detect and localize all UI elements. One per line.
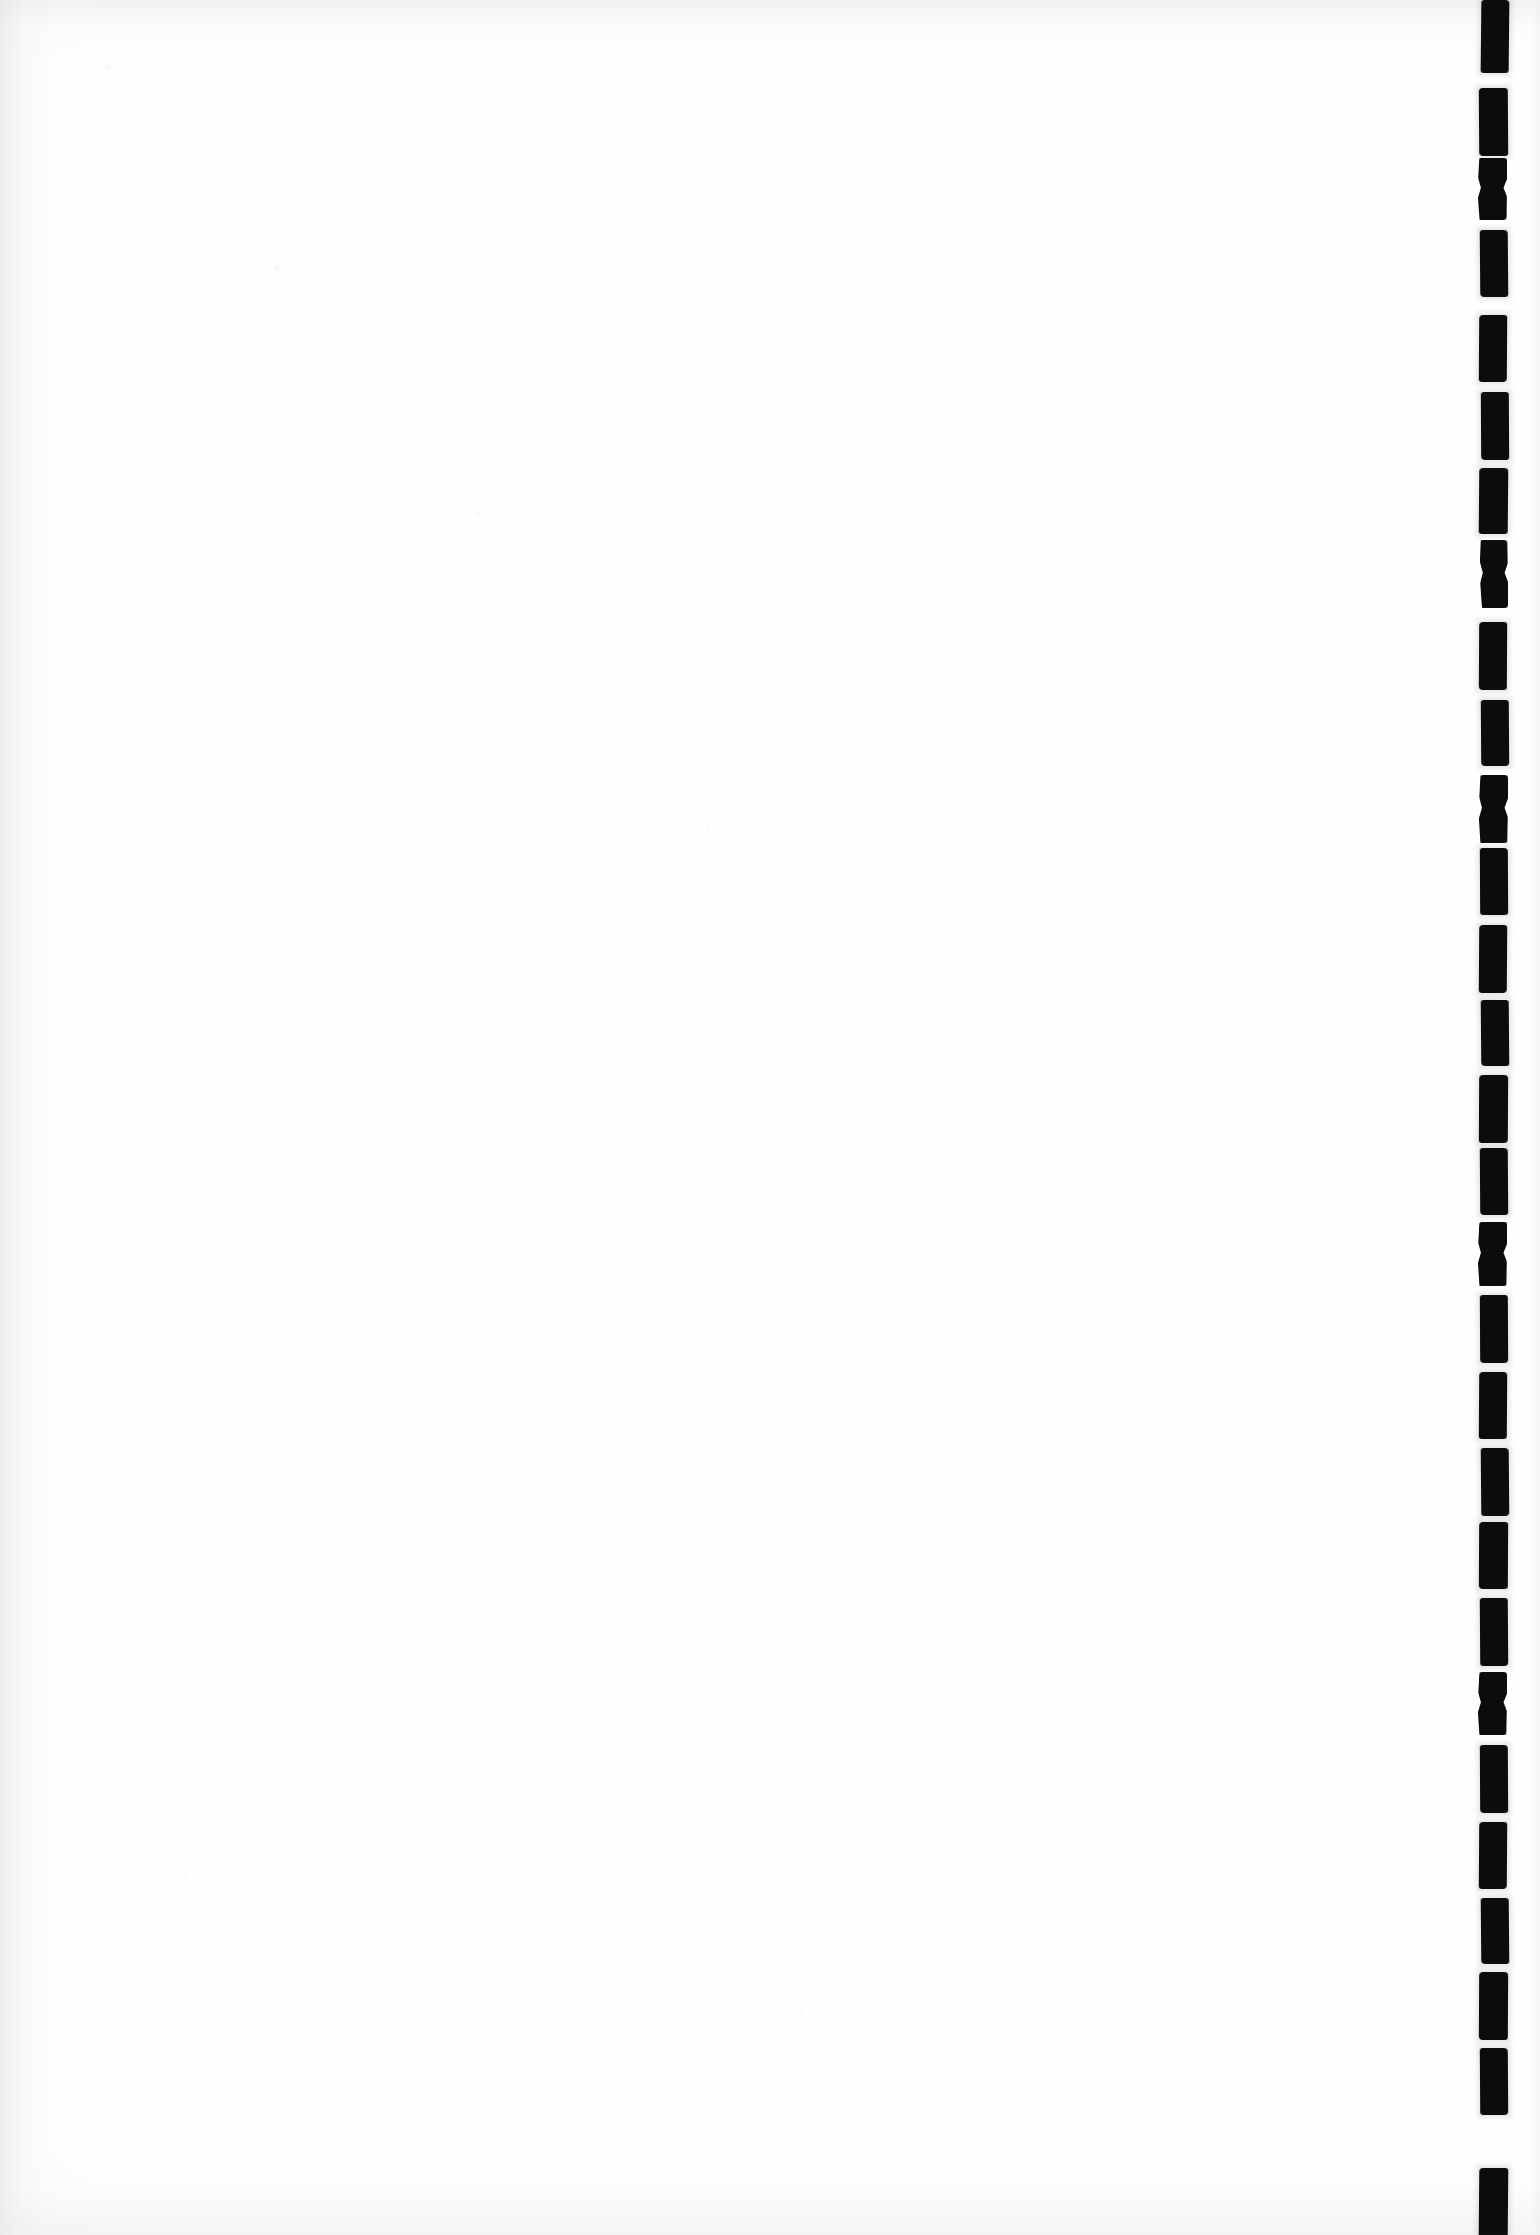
page-text-block xyxy=(135,160,1365,2030)
binding-edge-mark xyxy=(1481,0,1510,73)
binding-edge-mark xyxy=(1479,1075,1508,1143)
binding-edge-mark xyxy=(1480,2048,1508,2115)
binding-edge-mark xyxy=(1479,1522,1508,1589)
binding-edge-mark xyxy=(1481,700,1509,766)
binding-edge-mark xyxy=(1481,1000,1510,1066)
binding-edge-mark xyxy=(1481,1898,1510,1964)
binding-edge-mark xyxy=(1481,392,1509,460)
binding-edge-mark xyxy=(1480,230,1509,297)
scanned-page xyxy=(0,0,1540,2235)
binding-edge-mark xyxy=(1478,158,1507,220)
binding-edge-mark xyxy=(1480,1598,1508,1666)
binding-edge-mark xyxy=(1479,622,1507,690)
binding-edge-mark xyxy=(1478,1222,1508,1286)
binding-edge-mark xyxy=(1480,848,1508,915)
binding-edge-mark xyxy=(1479,1372,1507,1439)
binding-edge-mark xyxy=(1479,775,1509,843)
binding-edge-mark xyxy=(1479,1972,1508,2040)
binding-edge-mark xyxy=(1480,1745,1508,1813)
binding-edge-mark-column xyxy=(1455,0,1540,2235)
binding-edge-mark xyxy=(1479,2168,1509,2235)
binding-edge-mark xyxy=(1479,1822,1507,1889)
binding-edge-mark xyxy=(1479,468,1509,534)
binding-edge-mark xyxy=(1480,540,1509,608)
binding-edge-mark xyxy=(1478,1672,1508,1735)
binding-edge-mark xyxy=(1479,925,1507,993)
binding-edge-mark xyxy=(1479,88,1508,156)
binding-edge-mark xyxy=(1480,1148,1508,1215)
binding-edge-mark xyxy=(1481,1448,1510,1516)
binding-edge-mark xyxy=(1479,315,1507,382)
binding-edge-mark xyxy=(1480,1295,1508,1363)
